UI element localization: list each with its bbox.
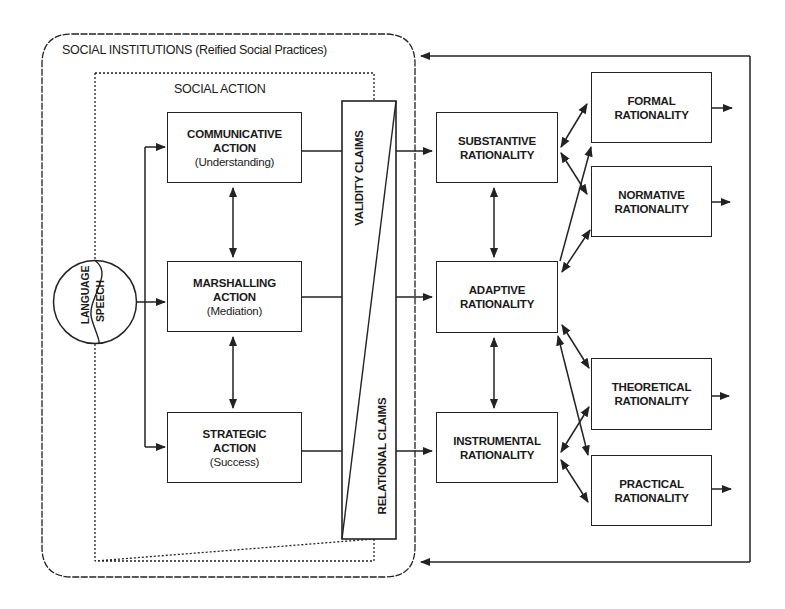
normative-rationality-box: NORMATIVE RATIONALITY <box>591 166 712 237</box>
marshalling-action-title-1: MARSHALLING <box>193 276 276 290</box>
communicative-action-title-2: ACTION <box>213 141 256 155</box>
speech-label: SPEECH <box>94 275 108 327</box>
marshalling-action-title-2: ACTION <box>213 290 256 304</box>
instrumental-rationality-box: INSTRUMENTAL RATIONALITY <box>436 412 558 483</box>
validity-claims-label: VALIDITY CLAIMS <box>353 123 367 233</box>
theoretical-rationality-line2: RATIONALITY <box>614 394 688 408</box>
practical-rationality-box: PRACTICAL RATIONALITY <box>591 455 712 526</box>
instrumental-rationality-line2: RATIONALITY <box>460 448 534 462</box>
marshalling-action-subtitle: (Mediation) <box>207 304 262 318</box>
adaptive-rationality-line2: RATIONALITY <box>460 297 534 311</box>
strategic-action-title-2: ACTION <box>213 441 256 455</box>
formal-rationality-box: FORMAL RATIONALITY <box>591 72 712 143</box>
theoretical-rationality-line1: THEORETICAL <box>612 380 692 394</box>
adaptive-rationality-line1: ADAPTIVE <box>469 283 526 297</box>
strategic-action-subtitle: (Success) <box>210 455 259 469</box>
communicative-action-box: COMMUNICATIVE ACTION (Understanding) <box>167 112 302 183</box>
relational-claims-label: RELATIONAL CLAIMS <box>376 391 390 521</box>
communicative-action-title-1: COMMUNICATIVE <box>187 127 282 141</box>
instrumental-rationality-line1: INSTRUMENTAL <box>453 434 540 448</box>
communicative-action-subtitle: (Understanding) <box>195 155 274 169</box>
normative-rationality-line2: RATIONALITY <box>614 202 688 216</box>
practical-rationality-line2: RATIONALITY <box>614 491 688 505</box>
practical-rationality-line1: PRACTICAL <box>619 477 684 491</box>
formal-rationality-line2: RATIONALITY <box>614 108 688 122</box>
marshalling-action-box: MARSHALLING ACTION (Mediation) <box>167 261 302 332</box>
adaptive-rationality-box: ADAPTIVE RATIONALITY <box>436 261 558 333</box>
strategic-action-box: STRATEGIC ACTION (Success) <box>167 412 302 483</box>
normative-rationality-line1: NORMATIVE <box>618 188 684 202</box>
social-institutions-title: SOCIAL INSTITUTIONS (Reified Social Prac… <box>62 43 327 57</box>
theoretical-rationality-box: THEORETICAL RATIONALITY <box>591 358 712 430</box>
formal-rationality-line1: FORMAL <box>628 94 676 108</box>
social-action-title: SOCIAL ACTION <box>174 82 266 96</box>
language-label: LANGUAGE <box>79 259 93 331</box>
substantive-rationality-line1: SUBSTANTIVE <box>458 134 536 148</box>
strategic-action-title-1: STRATEGIC <box>203 427 267 441</box>
substantive-rationality-line2: RATIONALITY <box>460 148 534 162</box>
substantive-rationality-box: SUBSTANTIVE RATIONALITY <box>436 112 558 183</box>
